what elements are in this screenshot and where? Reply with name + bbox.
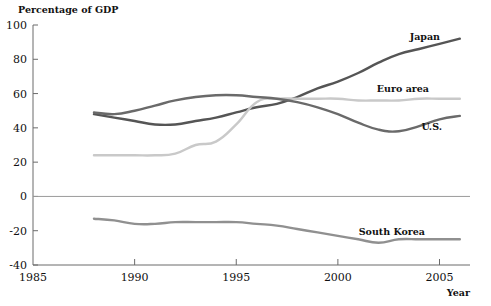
series-label-japan: Japan [409,31,440,42]
y-axis: -40-20020406080100 [6,19,38,272]
series-lines [94,39,460,243]
series-line-japan [94,39,460,125]
x-axis: 19851990199520002005 [19,259,470,284]
y-tick-label: 80 [13,53,27,66]
line-chart: Percentage of GDP -40-20020406080100 198… [0,0,491,306]
series-labels: JapanEuro areaU.S.South Korea [359,31,442,237]
y-tick-label: 100 [6,19,27,32]
chart-container: Percentage of GDP -40-20020406080100 198… [0,0,491,306]
x-tick-label: 2000 [324,271,352,284]
y-tick-label: 60 [13,88,27,101]
chart-title: Percentage of GDP [18,4,118,15]
y-tick-label: 20 [13,156,27,169]
series-label-u-s: U.S. [421,121,442,132]
series-label-euro-area: Euro area [377,83,429,94]
y-tick-label: 40 [13,122,27,135]
y-tick-label: -20 [9,225,27,238]
series-label-south-korea: South Korea [359,226,425,237]
x-tick-label: 1990 [121,271,149,284]
x-tick-label: 1995 [222,271,250,284]
chart-title-group: Percentage of GDP [18,4,118,15]
y-tick-label: 0 [20,190,27,203]
x-axis-title: Year [446,287,471,298]
x-tick-label: 2005 [426,271,454,284]
x-tick-label: 1985 [19,271,47,284]
